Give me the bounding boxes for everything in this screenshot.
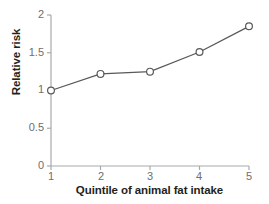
data-point-marker [48,87,55,94]
chart-container: Relative risk Quintile of animal fat int… [0,0,269,204]
plot-area [0,0,269,204]
data-point-marker [147,68,154,75]
data-point-marker [196,49,203,56]
x-tick-marks [51,166,249,170]
data-point-marker [246,23,253,30]
data-markers [48,23,253,94]
data-point-marker [97,70,104,77]
axis-lines [51,15,249,166]
data-line [51,26,249,90]
